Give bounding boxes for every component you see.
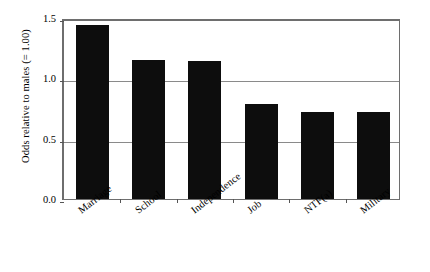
plot-area [62, 19, 400, 200]
bar [301, 112, 334, 199]
y-axis-tick-label: 0.5 [22, 135, 56, 145]
x-axis-tick-mark [233, 199, 234, 203]
y-axis-tick-label: 0.0 [22, 195, 56, 205]
gridline [64, 81, 399, 82]
x-axis-tick-mark [289, 199, 290, 203]
bar [357, 112, 390, 199]
x-axis-tick-mark [120, 199, 121, 203]
x-axis-tick-mark [177, 199, 178, 203]
bar [245, 104, 278, 199]
y-axis-tick-mark [60, 142, 64, 143]
y-axis-tick-mark [60, 21, 64, 22]
x-axis-tick-label: Job [245, 198, 264, 217]
y-axis-tick-mark [60, 202, 64, 203]
x-axis-tick-mark [346, 199, 347, 203]
y-axis-tick-label: 1.5 [22, 14, 56, 24]
y-axis-tick-mark [60, 81, 64, 82]
bar [76, 25, 109, 199]
bar-chart: Odds relative to males (= 1.00) 0.00.51.… [0, 0, 430, 272]
bar [188, 61, 221, 199]
y-axis-tick-label: 1.0 [22, 74, 56, 84]
gridline [64, 142, 399, 143]
y-axis-tick-labels: 0.00.51.01.5 [22, 0, 56, 272]
bar [132, 60, 165, 199]
